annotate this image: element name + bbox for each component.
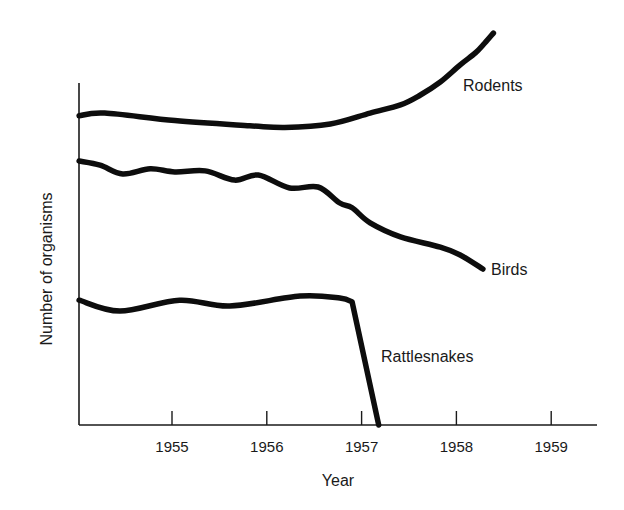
series-lines [79,33,493,425]
series-label-birds: Birds [491,261,527,278]
series-line-rodents [79,33,493,127]
x-tick-label: 1955 [155,438,188,455]
x-tick-label: 1958 [440,438,473,455]
x-axis-title: Year [322,472,355,489]
series-label-rodents: Rodents [463,77,523,94]
y-axis-title: Number of organisms [38,193,55,346]
x-tick-label: 1959 [535,438,568,455]
series-label-rattlesnakes: Rattlesnakes [381,348,474,365]
x-tick-labels: 19551956195719581959 [155,438,568,455]
x-tick-label: 1957 [345,438,378,455]
line-chart: 19551956195719581959 Rodents Birds Rattl… [0,0,624,510]
series-labels: Rodents Birds Rattlesnakes [381,77,527,365]
x-ticks [172,411,551,425]
x-tick-label: 1956 [250,438,283,455]
series-line-rattlesnakes [79,296,379,425]
series-line-birds [79,161,483,269]
